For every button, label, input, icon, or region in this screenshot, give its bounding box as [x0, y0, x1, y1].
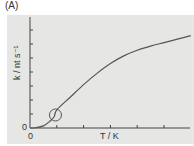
- x-axis-label: T / K: [100, 131, 119, 141]
- data-line: [30, 36, 191, 128]
- y-axis-label: k / nt s⁻¹: [12, 45, 22, 80]
- y-origin-label: 0: [22, 122, 27, 132]
- x-origin-label: 0: [28, 131, 33, 141]
- chart: 0 0 T / K k / nt s⁻¹: [0, 0, 194, 146]
